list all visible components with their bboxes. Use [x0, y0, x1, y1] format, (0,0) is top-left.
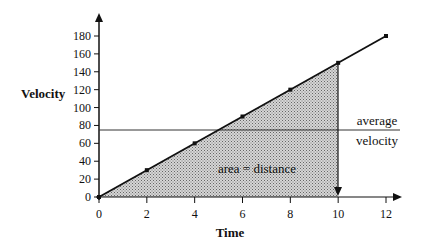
x-axis: 024681012	[96, 193, 402, 221]
x-tick-label: 0	[96, 207, 102, 221]
average-label-line1: average	[357, 113, 398, 128]
y-tick-label: 40	[79, 154, 91, 168]
data-point-marker	[384, 34, 388, 38]
y-tick-label: 140	[73, 65, 91, 79]
y-tick-label: 60	[79, 136, 91, 150]
y-axis-title: Velocity	[21, 86, 66, 101]
x-tick-label: 6	[240, 207, 246, 221]
data-point-marker	[97, 195, 101, 199]
y-axis: 020406080100120140160180	[73, 13, 103, 204]
y-axis-arrow-icon	[95, 13, 103, 22]
area-label: area = distance	[218, 161, 296, 176]
y-tick-label: 120	[73, 83, 91, 97]
x-tick-label: 10	[332, 207, 344, 221]
y-tick-label: 180	[73, 29, 91, 43]
y-tick-label: 160	[73, 47, 91, 61]
x-axis-arrow-icon	[393, 193, 402, 201]
x-axis-title: Time	[216, 225, 245, 240]
y-tick-label: 20	[79, 172, 91, 186]
x-tick-label: 12	[380, 207, 392, 221]
y-tick-label: 100	[73, 101, 91, 115]
average-label-line2: velocity	[356, 133, 398, 148]
x-tick-label: 2	[144, 207, 150, 221]
data-point-marker	[241, 115, 245, 119]
x-tick-label: 4	[192, 207, 198, 221]
x-tick-label: 8	[287, 207, 293, 221]
velocity-time-chart: 020406080100120140160180 024681012 Veloc…	[0, 0, 425, 248]
data-point-marker	[288, 88, 292, 92]
data-point-marker	[193, 141, 197, 145]
y-tick-label: 80	[79, 118, 91, 132]
y-tick-label: 0	[85, 190, 91, 204]
data-point-marker	[145, 168, 149, 172]
